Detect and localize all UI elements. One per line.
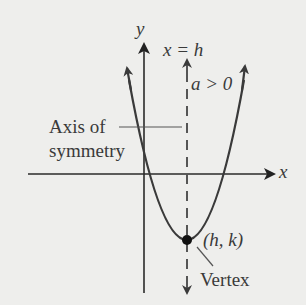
x-axis-label: x	[279, 162, 287, 181]
axis-of-symmetry-label-line1: Axis of	[49, 117, 105, 136]
parabola-right-arrow	[242, 66, 245, 90]
vertex-label: Vertex	[200, 270, 250, 289]
parabola-left-arrow	[127, 68, 131, 90]
y-axis-label: y	[136, 19, 144, 38]
condition-label: a > 0	[191, 74, 232, 93]
axis-equation-label: x = h	[163, 40, 203, 59]
diagram-graphics	[0, 0, 306, 305]
axis-of-symmetry-label-line2: symmetry	[49, 141, 125, 160]
vertex-coords-label: (h, k)	[203, 230, 243, 249]
parabola-diagram: y x x = h a > 0 Axis of symmetry (h, k) …	[0, 0, 306, 305]
vertex-point	[182, 235, 192, 245]
